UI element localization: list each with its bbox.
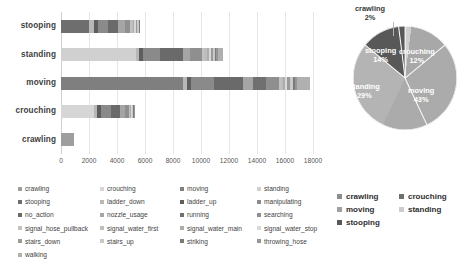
bar-segment[interactable] [108,20,118,33]
bar-segment[interactable] [218,48,224,61]
bar-segment[interactable] [61,105,94,118]
legend-swatch-icon [337,194,342,199]
legend-item-stairs_up[interactable]: stairs_up [100,235,180,248]
legend-item-searching[interactable]: searching [257,208,330,221]
pie-circle [353,26,457,130]
legend-item-label: signal_water_main [187,225,242,232]
bar-segment[interactable] [134,105,135,118]
bar-segment[interactable] [98,20,108,33]
bar-y-label-crouching: crouching [16,106,56,115]
legend-item-label: walking [25,251,47,258]
bar-segment[interactable] [297,77,310,90]
legend-swatch-icon [180,187,184,191]
bar-x-tick: 8000 [166,157,181,164]
bar-x-tick: 6000 [138,157,153,164]
bar-segment[interactable] [160,48,182,61]
legend-swatch-icon [18,226,22,230]
legend-item-crawling[interactable]: crawling [337,190,399,203]
legend-item-signal_water_main[interactable]: signal_water_main [180,222,257,235]
legend-item-label: crawling [25,185,49,192]
legend-swatch-icon [100,213,104,217]
bar-row[interactable] [61,77,310,90]
legend-item-running[interactable]: running [180,208,257,221]
pie-chart-legend: crawlingcrouchingmovingstandingstooping [337,190,469,240]
bar-row[interactable] [61,48,223,61]
legend-item-label: signal_water_stop [264,225,317,232]
pie-label-moving: moving 43% [408,86,434,105]
bar-segment[interactable] [61,133,74,146]
bar-y-label-standing: standing [21,50,56,59]
bar-segment[interactable] [253,77,266,90]
legend-item-moving[interactable]: moving [180,182,257,195]
legend-swatch-icon [18,253,22,257]
stacked-bar-chart: stoopingstandingmovingcrouchingcrawling … [0,0,332,178]
pie-label-standing: standing 29% [349,82,380,101]
legend-item-crouching[interactable]: crouching [399,190,465,203]
legend-swatch-icon [257,187,261,191]
legend-item-standing[interactable]: standing [399,203,465,216]
legend-swatch-icon [100,239,104,243]
legend-item-label: moving [346,205,374,214]
legend-item-label: signal_water_first [107,225,158,232]
legend-item-manipulating[interactable]: manipulating [257,195,330,208]
legend-item-ladder_up[interactable]: ladder_up [180,195,257,208]
pie-label-crawling-name: crawling [355,4,385,13]
legend-item-standing[interactable]: standing [257,182,330,195]
legend-item-ladder_down[interactable]: ladder_down [100,195,180,208]
bar-y-label-moving: moving [26,78,56,87]
legend-item-throwing_hose[interactable]: throwing_hose [257,235,330,248]
legend-swatch-icon [337,207,342,212]
legend-item-crouching[interactable]: crouching [100,182,180,195]
bar-y-label-crawling: crawling [22,135,56,144]
legend-swatch-icon [399,207,404,212]
bar-segment[interactable] [118,20,125,33]
bar-segment[interactable] [191,77,213,90]
legend-swatch-icon [337,220,342,225]
bar-x-tick: 16000 [276,157,294,164]
bar-segment[interactable] [61,20,89,33]
bar-segment[interactable] [101,105,111,118]
legend-swatch-icon [18,200,22,204]
legend-swatch-icon [18,213,22,217]
pie-label-crouching-percent: 12% [399,56,435,65]
bar-row[interactable] [61,133,74,146]
bar-segment[interactable] [143,48,161,61]
legend-item-moving[interactable]: moving [337,203,399,216]
bar-segment[interactable] [139,20,140,33]
legend-item-stooping[interactable]: stooping [337,216,399,229]
legend-swatch-icon [18,239,22,243]
legend-item-signal_water_stop[interactable]: signal_water_stop [257,222,330,235]
pie-label-moving-name: moving [408,86,434,95]
bar-segment[interactable] [183,48,190,61]
legend-item-label: running [187,211,209,218]
bar-segment[interactable] [243,77,253,90]
legend-item-stairs_down[interactable]: stairs_down [18,235,100,248]
legend-item-signal_water_first[interactable]: signal_water_first [100,222,180,235]
bar-x-axis-ticks: 0200040006000800010000120001400016000180… [61,157,313,169]
legend-swatch-icon [100,187,104,191]
legend-item-label: crawling [346,192,378,201]
pie-label-standing-percent: 29% [349,91,380,100]
legend-item-no_action[interactable]: no_action [18,208,100,221]
legend-item-striking[interactable]: striking [180,235,257,248]
bar-segment[interactable] [61,77,183,90]
legend-swatch-icon [257,213,261,217]
legend-swatch-icon [257,226,261,230]
bar-segment[interactable] [111,105,120,118]
bar-segment[interactable] [190,48,203,61]
legend-item-nozzle_usage[interactable]: nozzle_usage [100,208,180,221]
legend-item-label: stairs_up [107,238,134,245]
bar-row[interactable] [61,105,134,118]
legend-item-walking[interactable]: walking [18,248,100,261]
legend-item-signal_hose_pullback[interactable]: signal_hose_pullback [18,222,100,235]
bar-segment[interactable] [266,77,279,90]
bar-y-axis-labels: stoopingstandingmovingcrouchingcrawling [0,12,56,154]
legend-swatch-icon [180,239,184,243]
bar-segment[interactable] [61,48,136,61]
bar-x-tick: 10000 [192,157,210,164]
legend-item-label: crouching [408,192,447,201]
legend-item-stooping[interactable]: stooping [18,195,100,208]
bar-row[interactable] [61,20,139,33]
legend-item-crawling[interactable]: crawling [18,182,100,195]
bar-segment[interactable] [214,77,243,90]
